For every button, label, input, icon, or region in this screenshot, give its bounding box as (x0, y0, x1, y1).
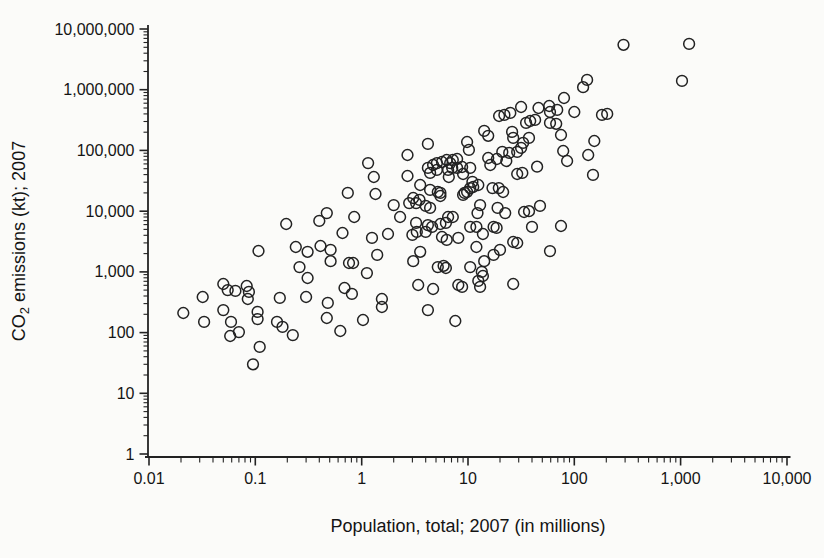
data-point (302, 246, 313, 257)
y-tick-label: 100,000 (77, 142, 135, 159)
data-point (274, 293, 285, 304)
y-tick-label: 1 (126, 446, 135, 463)
data-point (337, 228, 348, 239)
data-point (677, 76, 688, 87)
data-point (556, 130, 567, 141)
axis-ticks (140, 29, 788, 466)
data-point (325, 245, 336, 256)
data-point (465, 262, 476, 273)
axes (145, 25, 791, 458)
y-tick-label: 1,000 (94, 263, 134, 280)
data-point (453, 233, 464, 244)
data-point (508, 279, 519, 290)
data-point (402, 171, 413, 182)
data-point (492, 203, 503, 214)
data-point (415, 246, 426, 257)
data-point (471, 242, 482, 253)
data-point (588, 170, 599, 181)
y-axis-title-subscript: 2 (17, 307, 32, 314)
data-point (254, 342, 265, 353)
data-point (377, 302, 388, 313)
data-point (556, 221, 567, 232)
data-point (558, 146, 569, 157)
data-point (315, 241, 326, 252)
data-point (532, 161, 543, 172)
data-point (383, 229, 394, 240)
data-point (242, 294, 253, 305)
data-point (335, 326, 346, 337)
data-point (618, 39, 629, 50)
data-point (559, 93, 570, 104)
data-point (465, 222, 476, 233)
axis-tick-labels: 0.010.11101001,00010,0001101001,00010,00… (54, 21, 811, 488)
data-point (458, 169, 469, 180)
data-point (562, 156, 573, 167)
data-point (253, 246, 264, 257)
y-tick-label: 10,000 (86, 203, 135, 220)
data-point (294, 262, 305, 273)
data-point (290, 242, 301, 253)
data-point (479, 256, 490, 267)
data-point (302, 273, 313, 284)
data-point (415, 180, 426, 191)
data-point (551, 118, 562, 129)
data-point (527, 222, 538, 233)
data-point (339, 283, 350, 294)
data-point (402, 150, 413, 161)
data-point (457, 282, 468, 293)
y-tick-label: 100 (108, 324, 135, 341)
data-point (475, 282, 486, 293)
data-point (684, 39, 695, 50)
data-point (533, 103, 544, 114)
data-point (583, 150, 594, 161)
data-point (197, 292, 208, 303)
data-point (199, 317, 210, 328)
data-point (500, 208, 511, 219)
y-axis-title: CO2 emissions (kt); 2007 (9, 141, 32, 341)
data-point (471, 222, 482, 233)
data-point (230, 286, 241, 297)
y-tick-label: 10,000,000 (54, 21, 134, 38)
data-point (505, 108, 516, 119)
data-point (485, 160, 496, 171)
data-point (428, 284, 439, 295)
data-point (349, 212, 360, 223)
data-point (281, 219, 292, 230)
x-tick-label: 100 (561, 470, 588, 487)
x-axis-title: Population, total; 2007 (in millions) (330, 516, 605, 536)
data-point (358, 315, 369, 326)
data-point (362, 268, 373, 279)
x-tick-label: 1 (357, 470, 366, 487)
data-point (425, 185, 436, 196)
data-point (372, 250, 383, 261)
data-point (367, 233, 378, 244)
data-point (325, 256, 336, 267)
data-point (342, 188, 353, 199)
data-point (368, 172, 379, 183)
data-point (569, 107, 580, 118)
x-tick-label: 0.1 (244, 470, 266, 487)
x-tick-label: 0.01 (133, 470, 164, 487)
data-points (178, 39, 695, 370)
scatter-figure: 0.010.11101001,00010,0001101001,00010,00… (0, 0, 824, 558)
data-point (234, 327, 245, 338)
data-point (462, 137, 473, 148)
data-point (248, 359, 259, 370)
data-point (321, 313, 332, 324)
data-point (408, 256, 419, 267)
x-tick-label: 1,000 (661, 470, 701, 487)
data-point (314, 216, 325, 227)
data-point (441, 263, 452, 274)
x-tick-label: 10 (459, 470, 477, 487)
data-point (535, 201, 546, 212)
data-point (370, 189, 381, 200)
data-point (287, 330, 298, 341)
data-point (226, 317, 237, 328)
data-point (478, 229, 489, 240)
data-point (413, 280, 424, 291)
data-point (450, 316, 461, 327)
data-point (487, 183, 498, 194)
data-point (322, 298, 333, 309)
y-tick-label: 10 (117, 385, 135, 402)
data-point (589, 136, 600, 147)
